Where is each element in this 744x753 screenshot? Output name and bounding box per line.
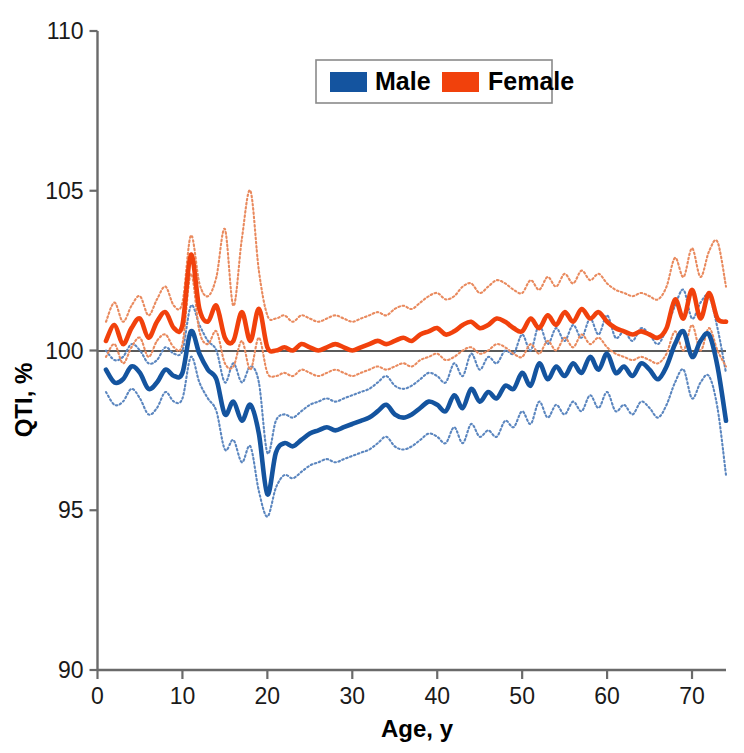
y-axis-title: QTI, % (10, 363, 37, 438)
x-tick-label: 50 (509, 683, 535, 709)
legend: Male Female (316, 60, 574, 103)
x-tick-label: 20 (255, 683, 281, 709)
y-tick-label: 95 (58, 497, 84, 523)
legend-label-male: Male (375, 67, 431, 95)
qti-by-age-line-chart: 9095100105110 010203040506070 QTI, % Age… (0, 0, 744, 753)
legend-swatch-male (330, 72, 367, 92)
legend-swatch-female (442, 72, 479, 92)
y-tick-label: 105 (45, 178, 83, 204)
y-tick-label: 100 (45, 338, 83, 364)
x-tick-label: 70 (679, 683, 705, 709)
x-tick-label: 0 (91, 683, 104, 709)
x-axis-title: Age, y (381, 715, 454, 742)
legend-label-female: Female (488, 67, 574, 95)
y-tick-label: 110 (47, 18, 84, 44)
x-tick-label: 60 (594, 683, 620, 709)
y-tick-label: 90 (58, 657, 84, 683)
x-tick-label: 30 (340, 683, 366, 709)
chart-figure: 9095100105110 010203040506070 QTI, % Age… (0, 0, 744, 753)
x-tick-label: 10 (170, 683, 196, 709)
x-tick-label: 40 (424, 683, 450, 709)
